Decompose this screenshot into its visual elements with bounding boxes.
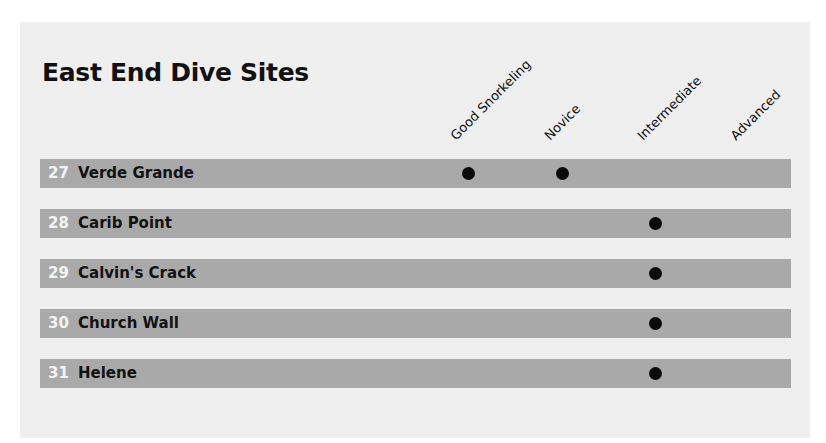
site-row-28: 28 Carib Point [40, 209, 791, 238]
filled-circle-icon [462, 167, 475, 180]
site-number: 30 [48, 314, 69, 332]
site-row-30: 30 Church Wall [40, 309, 791, 338]
filled-circle-icon [649, 317, 662, 330]
site-name: Carib Point [78, 214, 172, 232]
site-row-31: 31 Helene [40, 359, 791, 388]
site-number: 27 [48, 164, 69, 182]
site-number: 29 [48, 264, 69, 282]
site-name: Calvin's Crack [78, 264, 196, 282]
site-name: Helene [78, 364, 137, 382]
site-number: 28 [48, 214, 69, 232]
site-row-27: 27 Verde Grande [40, 159, 791, 188]
page-title: East End Dive Sites [42, 58, 309, 87]
site-row-29: 29 Calvin's Crack [40, 259, 791, 288]
filled-circle-icon [649, 367, 662, 380]
filled-circle-icon [556, 167, 569, 180]
site-name: Church Wall [78, 314, 179, 332]
filled-circle-icon [649, 267, 662, 280]
site-name: Verde Grande [78, 164, 194, 182]
site-number: 31 [48, 364, 69, 382]
filled-circle-icon [649, 217, 662, 230]
